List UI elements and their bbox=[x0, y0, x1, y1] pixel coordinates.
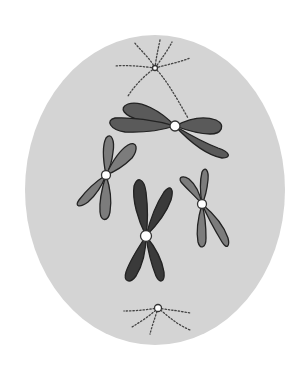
lower-centrosome bbox=[155, 305, 162, 312]
mitosis-diagram bbox=[0, 0, 300, 370]
upper-centrosome bbox=[153, 66, 158, 71]
cell-body bbox=[25, 35, 285, 345]
